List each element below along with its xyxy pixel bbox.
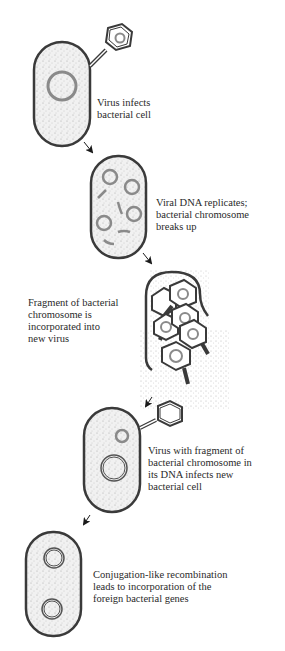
- step-4-label-line: Virus with fragment of: [148, 445, 252, 457]
- step-1-label-line: bacterial cell: [97, 109, 151, 121]
- step-3-label: Fragment of bacterial chromosome is inco…: [28, 297, 118, 345]
- step-3-label-line: Fragment of bacterial: [28, 297, 118, 309]
- step-5-label-line: Conjugation-like recombination: [93, 569, 227, 581]
- step-1-virus-icon: [90, 24, 132, 66]
- step-4-label: Virus with fragment of bacterial chromos…: [148, 445, 252, 493]
- step-2-label-line: Viral DNA replicates;: [156, 197, 249, 209]
- step-3-label-line: incorporated into: [28, 321, 118, 333]
- arrow-icon-1: [84, 142, 92, 152]
- arrow-icon-4: [84, 515, 90, 524]
- arrow-icon-2: [143, 253, 151, 263]
- step-2-label-line: breaks up: [156, 221, 249, 233]
- step-5-label: Conjugation-like recombination leads to …: [93, 569, 227, 605]
- step-2-label: Viral DNA replicates; bacterial chromoso…: [156, 197, 249, 233]
- step-5-label-line: foreign bacterial genes: [93, 593, 227, 605]
- step-2-label-line: bacterial chromosome: [156, 209, 249, 221]
- step-4-bacterium-icon: [84, 408, 140, 512]
- step-2-bacterium-icon: [91, 156, 146, 258]
- step-4-label-line: its DNA infects new: [148, 469, 252, 481]
- step-3-label-line: new virus: [28, 333, 118, 345]
- step-5-label-line: leads to incorporation of the: [93, 581, 227, 593]
- step-4-label-line: bacterial chromosome in: [148, 457, 252, 469]
- step-1-bacterium-icon: [34, 42, 90, 146]
- step-1-label-line: Virus infects: [97, 97, 151, 109]
- step-4-label-line: bacterial cell: [148, 481, 252, 493]
- step-3-label-line: chromosome is: [28, 309, 118, 321]
- step-5-bacterium-icon: [26, 532, 81, 636]
- step-1-label: Virus infects bacterial cell: [97, 97, 151, 121]
